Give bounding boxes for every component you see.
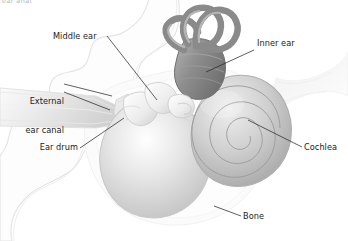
label-middle-ear: Middle ear [53,32,97,42]
label-cochlea: Cochlea [304,143,337,153]
label-ear-drum: Ear drum [0,143,78,153]
label-bone: Bone [243,212,264,222]
ear-anatomy-diagram: ear anat [0,0,348,241]
label-external-ear-canal-line1: External [0,97,64,107]
label-external-ear-canal-line2: ear canal [0,126,64,136]
label-inner-ear: Inner ear [257,39,295,49]
